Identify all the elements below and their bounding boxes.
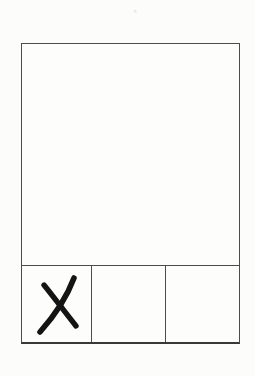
answer-cell-1[interactable]: [22, 266, 92, 342]
main-answer-box: [22, 44, 239, 266]
answer-cell-3[interactable]: [166, 266, 239, 342]
form-box: [21, 43, 240, 344]
answer-cell-row: [22, 266, 239, 342]
x-mark-icon: [35, 275, 81, 337]
scanned-form-sheet: [0, 0, 255, 376]
answer-cell-2[interactable]: [92, 266, 166, 342]
